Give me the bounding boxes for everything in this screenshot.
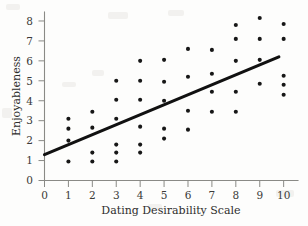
data-point xyxy=(258,82,262,86)
y-axis-tick-labels: 012345678 xyxy=(26,15,33,187)
data-point xyxy=(186,75,190,79)
data-point xyxy=(258,37,262,41)
x-axis-title: Dating Desirability Scale xyxy=(101,204,240,217)
data-point xyxy=(234,23,238,27)
data-point xyxy=(138,98,142,102)
data-point xyxy=(114,98,118,102)
data-point xyxy=(258,58,262,62)
x-tick-label-4: 4 xyxy=(137,189,144,201)
data-point xyxy=(90,110,94,114)
y-tick-label-8: 8 xyxy=(26,15,33,27)
plot-canvas: 012345678 012345678910 Dating Desirabili… xyxy=(0,0,308,226)
x-tick-label-9: 9 xyxy=(256,189,263,201)
data-point xyxy=(66,139,70,143)
data-point xyxy=(282,93,286,97)
data-point xyxy=(114,151,118,155)
x-tick-label-5: 5 xyxy=(161,189,168,201)
x-tick-label-2: 2 xyxy=(89,189,96,201)
x-tick-label-7: 7 xyxy=(209,189,216,201)
data-point xyxy=(90,126,94,130)
x-tick-label-1: 1 xyxy=(65,189,72,201)
x-tick-label-0: 0 xyxy=(41,189,48,201)
data-point xyxy=(114,79,118,83)
data-point xyxy=(234,37,238,41)
data-point xyxy=(186,109,190,113)
data-point xyxy=(162,58,166,62)
data-point xyxy=(282,22,286,26)
data-point xyxy=(138,151,142,155)
data-point xyxy=(282,74,286,78)
y-tick-label-1: 1 xyxy=(26,154,33,166)
data-point xyxy=(258,16,262,20)
data-point xyxy=(162,80,166,84)
data-point xyxy=(114,160,118,164)
x-tick-label-10: 10 xyxy=(277,189,290,201)
data-point xyxy=(234,59,238,63)
data-point xyxy=(138,59,142,63)
y-tick-label-7: 7 xyxy=(26,35,33,47)
data-point xyxy=(90,160,94,164)
data-point xyxy=(210,48,214,52)
x-tick-label-3: 3 xyxy=(113,189,120,201)
y-axis-title: Enjoyableness xyxy=(10,56,23,136)
data-point xyxy=(186,128,190,132)
data-point xyxy=(282,83,286,87)
data-point xyxy=(234,110,238,114)
data-point xyxy=(138,143,142,147)
data-point xyxy=(114,117,118,121)
y-tick-label-3: 3 xyxy=(26,114,33,126)
data-point xyxy=(210,110,214,114)
data-point xyxy=(162,127,166,131)
data-point xyxy=(162,99,166,103)
y-tick-label-6: 6 xyxy=(26,55,33,67)
data-point xyxy=(66,127,70,131)
data-point xyxy=(138,79,142,83)
scatter-plot-figure: 012345678 012345678910 Dating Desirabili… xyxy=(0,0,308,226)
data-point xyxy=(66,117,70,121)
y-tick-label-0: 0 xyxy=(26,174,33,186)
data-point xyxy=(66,160,70,164)
data-point xyxy=(90,151,94,155)
data-point xyxy=(210,72,214,76)
y-tick-label-5: 5 xyxy=(26,75,33,87)
y-tick-label-4: 4 xyxy=(26,95,33,107)
x-tick-label-8: 8 xyxy=(232,189,239,201)
data-point xyxy=(210,90,214,94)
y-tick-label-2: 2 xyxy=(26,134,33,146)
data-point xyxy=(282,37,286,41)
data-point xyxy=(234,90,238,94)
x-tick-label-6: 6 xyxy=(185,189,192,201)
data-point xyxy=(114,143,118,147)
data-point xyxy=(162,137,166,141)
data-point xyxy=(138,125,142,129)
data-point xyxy=(186,47,190,51)
